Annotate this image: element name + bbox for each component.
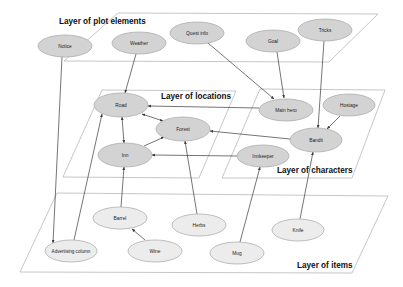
node-label: Road [115, 103, 127, 108]
layer-label-items: Layer of items [297, 261, 353, 270]
node-label: Tricks [319, 28, 332, 33]
node-inn[interactable]: Inn [98, 143, 152, 167]
node-goal[interactable]: Goal [246, 30, 300, 52]
node-bandit[interactable]: Bandit [290, 128, 342, 152]
node-mug[interactable]: Mug [210, 242, 264, 264]
node-label: Innkeeper [252, 154, 274, 159]
node-label: Forest [176, 127, 190, 132]
node-label: Goal [268, 39, 278, 44]
node-label: Herbs [193, 223, 206, 228]
node-quest[interactable]: Quest info [170, 22, 224, 44]
node-barrel[interactable]: Barrel [93, 207, 147, 229]
node-label: Knife [293, 228, 304, 233]
node-label: Weather [130, 41, 148, 46]
layered-diagram: NoticeWeatherQuest infoGoalTricksRoadFor… [0, 0, 403, 287]
node-forest[interactable]: Forest [156, 117, 210, 141]
node-mainhero[interactable]: Main hero [259, 99, 313, 121]
node-label: Wine [150, 249, 161, 254]
layer-label-characters: Layer of characters [277, 166, 353, 175]
node-innkeeper[interactable]: Innkeeper [237, 145, 289, 167]
node-herbs[interactable]: Herbs [172, 214, 226, 236]
diagram-canvas: NoticeWeatherQuest infoGoalTricksRoadFor… [0, 0, 403, 287]
node-tricks[interactable]: Tricks [298, 19, 352, 41]
node-advcol[interactable]: Advertising column [45, 240, 97, 262]
node-label: Notice [58, 44, 72, 49]
node-hostage[interactable]: Hostage [323, 94, 375, 116]
node-label: Mug [232, 251, 242, 256]
node-road[interactable]: Road [94, 93, 148, 117]
node-label: Advertising column [52, 249, 91, 254]
layer-label-locations: Layer of locations [161, 92, 232, 101]
node-wine[interactable]: Wine [128, 240, 182, 262]
node-weather[interactable]: Weather [112, 32, 166, 54]
node-label: Quest info [186, 31, 208, 36]
node-label: Barrel [114, 216, 127, 221]
layer-label-plot: Layer of plot elements [59, 17, 146, 26]
layer-plane-locations [63, 90, 236, 178]
node-label: Hostage [340, 103, 358, 108]
node-label: Main hero [275, 108, 297, 113]
node-knife[interactable]: Knife [272, 219, 324, 241]
node-label: Bandit [309, 138, 323, 143]
node-label: Inn [122, 153, 129, 158]
node-notice[interactable]: Notice [38, 35, 92, 57]
